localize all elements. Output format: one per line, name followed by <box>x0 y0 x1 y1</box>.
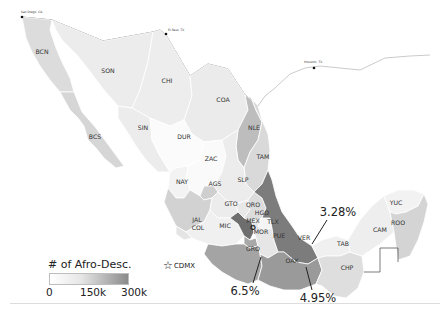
label-sin: SIN <box>138 124 149 131</box>
legend-title: # of Afro-Desc. <box>48 258 132 271</box>
label-nle: NLE <box>248 124 260 131</box>
legend-cdmx-label: CDMX <box>174 262 195 270</box>
label-son: SON <box>101 67 115 74</box>
label-mor: MOR <box>254 228 269 235</box>
city-marker-san-diego <box>21 16 24 19</box>
texas-coastline <box>258 55 430 106</box>
legend-tick-0: 0 <box>46 286 53 298</box>
label-mic: MIC <box>219 222 230 229</box>
city-label-san-diego: San Diego, CA <box>21 10 43 14</box>
label-ags: AGS <box>209 180 222 187</box>
label-mex: MEX <box>246 217 260 224</box>
city-marker-houston <box>313 67 316 70</box>
legend-gradient-bar <box>49 273 129 285</box>
label-tlx: TLX <box>266 218 279 225</box>
label-dur: DUR <box>177 133 191 140</box>
label-chi: CHI <box>162 77 173 84</box>
city-label-el-paso: El Paso, TX <box>168 28 184 32</box>
star-icon: ☆ <box>163 261 173 271</box>
label-tab: TAB <box>336 240 349 247</box>
state-bcs <box>60 92 124 168</box>
label-tam: TAM <box>256 153 270 160</box>
label-bcs: BCS <box>89 133 101 140</box>
label-roo: ROO <box>391 219 405 226</box>
legend-tick-150k: 150k <box>80 286 106 298</box>
label-coa: COA <box>216 96 230 103</box>
label-yuc: YUC <box>389 199 403 206</box>
label-nay: NAY <box>176 178 188 185</box>
label-slp: SLP <box>237 176 248 183</box>
label-oax: OAX <box>285 257 299 264</box>
city-label-houston: Houston, TX <box>304 60 322 64</box>
legend-cdmx-marker: ☆ CDMX <box>163 261 195 271</box>
label-ver: VER <box>298 234 311 241</box>
callout-ver-value: 3.28% <box>320 205 357 219</box>
label-chp: CHP <box>341 264 354 271</box>
city-marker-el-paso <box>165 33 168 36</box>
label-bcn: BCN <box>35 48 48 55</box>
label-pue: PUE <box>273 232 285 239</box>
label-gto: GTO <box>224 200 237 207</box>
label-col: COL <box>192 224 205 231</box>
callout-gro-value: 6.5% <box>230 284 259 298</box>
bottom-divider <box>10 303 440 304</box>
label-jal: JAL <box>191 216 202 224</box>
label-hgo: HGO <box>255 209 269 216</box>
cdmx-star-icon: ✪ <box>250 224 256 232</box>
legend-tick-300k: 300k <box>121 286 147 298</box>
label-qro: QRO <box>246 201 260 208</box>
label-zac: ZAC <box>205 155 218 162</box>
label-cam: CAM <box>373 226 387 233</box>
label-gro: GRO <box>246 245 260 252</box>
